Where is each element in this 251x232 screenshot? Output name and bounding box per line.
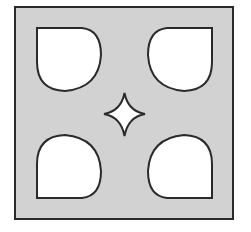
cutout-top-left [37, 28, 101, 91]
cutout-bottom-left [37, 135, 101, 198]
cutout-bottom-right [148, 135, 212, 198]
tile-diagram [0, 0, 251, 232]
cutout-top-right [148, 28, 212, 91]
